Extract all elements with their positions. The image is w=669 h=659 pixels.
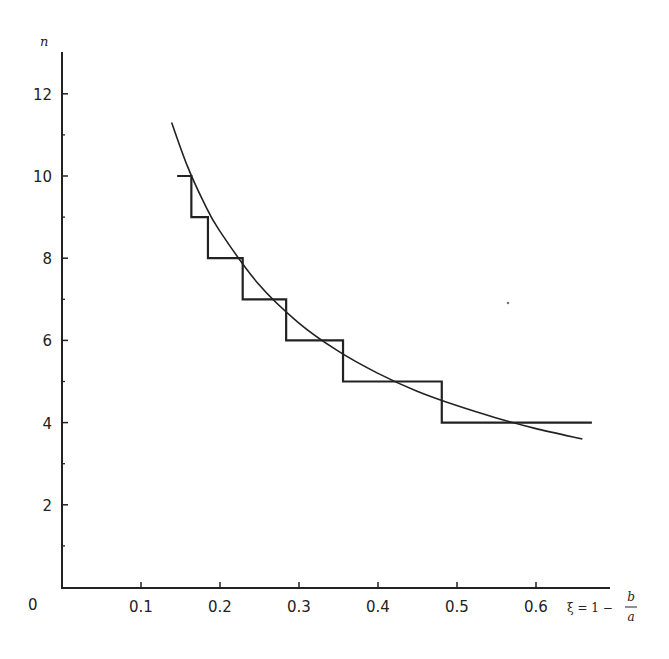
x-tick-label: 0.3 [287,598,311,616]
x-tick-label: 0.5 [445,598,469,616]
x-tick-label: 0.1 [129,598,153,616]
axes [61,52,610,588]
curve-series [172,123,583,439]
x-axis-label-numerator: b [627,590,635,604]
y-tick-label: 6 [42,332,52,350]
y-tick-label: 2 [42,497,52,515]
scan-speck [507,302,510,305]
x-axis-label-lhs: ξ = 1 − [567,601,613,615]
chart-canvas: 24681012 0.10.20.30.40.50.6 n 0 ξ = 1 − … [0,0,669,659]
y-tick-label: 12 [33,86,52,104]
y-tick-label: 8 [42,250,52,268]
y-tick-label: 10 [33,168,52,186]
y-axis-label: n [40,34,48,49]
x-axis-label: ξ = 1 − b a [567,590,637,624]
step-series [177,176,592,423]
origin-label: 0 [28,596,38,614]
y-tick-label: 4 [42,415,52,433]
x-tick-label: 0.2 [208,598,232,616]
x-tick-label: 0.6 [524,598,548,616]
x-tick-label: 0.4 [366,598,390,616]
x-axis-label-denominator: a [627,610,634,624]
